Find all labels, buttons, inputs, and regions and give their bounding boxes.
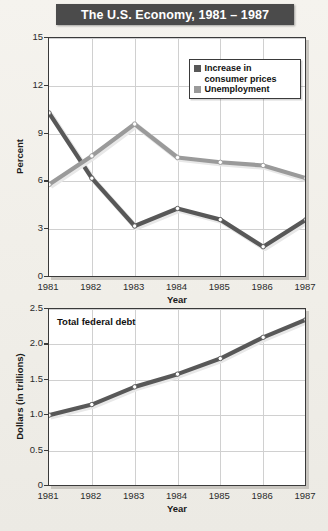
chart-page: The U.S. Economy, 1981 – 1987 Increase i… <box>0 0 328 531</box>
data-point-marker <box>261 335 265 339</box>
y-axis-tick-label: 12 <box>32 80 43 90</box>
y-axis-tick-label: 6 <box>38 176 43 186</box>
data-point-marker <box>48 111 51 115</box>
legend-item: Unemployment <box>194 84 295 95</box>
y-axis-tick-label: 0 <box>38 480 43 490</box>
x-axis-tick-label: 1981 <box>37 491 58 501</box>
data-point-marker <box>304 176 306 180</box>
y-axis-tick-label: 15 <box>32 32 43 42</box>
data-point-marker <box>90 176 94 180</box>
chart-inline-title: Total federal debt <box>57 316 135 327</box>
y-axis-tick-mark <box>44 133 48 134</box>
data-point-marker <box>175 372 179 376</box>
x-axis-tick-label: 1982 <box>80 491 101 501</box>
y-axis-tick-mark <box>44 485 48 486</box>
series-line <box>49 320 306 416</box>
series-layer <box>49 309 306 486</box>
x-axis-tick-label: 1984 <box>166 491 187 501</box>
data-point-marker <box>261 163 265 167</box>
chart-economy-indicators: Increase in consumer pricesUnemployment0… <box>0 28 328 290</box>
x-axis-tick-label: 1984 <box>166 282 187 292</box>
data-point-marker <box>304 217 306 221</box>
y-axis-tick-mark <box>44 379 48 380</box>
data-point-marker <box>218 217 222 221</box>
y-axis-tick-label: 1.0 <box>30 409 43 419</box>
data-point-marker <box>90 154 94 158</box>
data-point-marker <box>48 182 51 186</box>
y-axis-tick-mark <box>44 37 48 38</box>
x-axis-tick-label: 1985 <box>209 282 230 292</box>
y-axis-tick-label: 2.5 <box>30 303 43 313</box>
data-point-marker <box>132 385 136 389</box>
data-point-marker <box>132 122 136 126</box>
x-axis-tick-label: 1987 <box>294 491 315 501</box>
legend-item: Increase in consumer prices <box>194 63 295 84</box>
y-axis-tick-mark <box>44 228 48 229</box>
series-line-highlight <box>51 114 306 248</box>
y-axis-tick-label: 3 <box>38 223 43 233</box>
data-point-marker <box>218 160 222 164</box>
plot-area: Total federal debt <box>48 308 306 486</box>
data-point-marker <box>90 402 94 406</box>
y-axis-tick-label: 2.0 <box>30 339 43 349</box>
x-axis-tick-label: 1986 <box>252 282 273 292</box>
plot-area: Increase in consumer pricesUnemployment <box>48 37 306 277</box>
data-point-marker <box>261 245 265 249</box>
data-point-marker <box>48 413 51 417</box>
x-axis-tick-label: 1983 <box>123 282 144 292</box>
page-title: The U.S. Economy, 1981 – 1987 <box>56 4 294 25</box>
x-axis-tick-label: 1985 <box>209 491 230 501</box>
x-axis-tick-label: 1986 <box>252 491 273 501</box>
y-axis-tick-mark <box>44 276 48 277</box>
y-axis-tick-mark <box>44 343 48 344</box>
data-point-marker <box>218 356 222 360</box>
data-point-marker <box>175 155 179 159</box>
y-axis-tick-mark <box>44 414 48 415</box>
legend-item-label: Unemployment <box>205 84 270 95</box>
data-point-marker <box>132 224 136 228</box>
y-axis-tick-label: 9 <box>38 128 43 138</box>
y-axis-label: Percent <box>14 37 25 277</box>
x-axis-tick-label: 1981 <box>37 282 58 292</box>
chart-legend: Increase in consumer pricesUnemployment <box>189 59 301 99</box>
y-axis-tick-label: 1.5 <box>30 374 43 384</box>
x-axis-label: Year <box>48 503 306 514</box>
series-line <box>49 113 306 247</box>
y-axis-tick-mark <box>44 450 48 451</box>
x-axis-tick-label: 1982 <box>80 282 101 292</box>
x-axis-tick-label: 1983 <box>123 491 144 501</box>
chart-total-federal-debt: Total federal debt00.51.01.52.02.5198119… <box>0 300 328 531</box>
y-axis-tick-label: 0 <box>38 271 43 281</box>
y-axis-tick-label: 0.5 <box>30 445 43 455</box>
data-point-marker <box>304 317 306 321</box>
x-axis-tick-label: 1987 <box>294 282 315 292</box>
legend-swatch-consumer-prices <box>194 65 201 72</box>
y-axis-label: Dollars (in trillions) <box>14 308 25 486</box>
y-axis-tick-mark <box>44 180 48 181</box>
data-point-marker <box>175 206 179 210</box>
y-axis-tick-mark <box>44 85 48 86</box>
legend-swatch-unemployment <box>194 86 201 93</box>
legend-item-label: Increase in consumer prices <box>205 63 277 84</box>
y-axis-tick-mark <box>44 308 48 309</box>
